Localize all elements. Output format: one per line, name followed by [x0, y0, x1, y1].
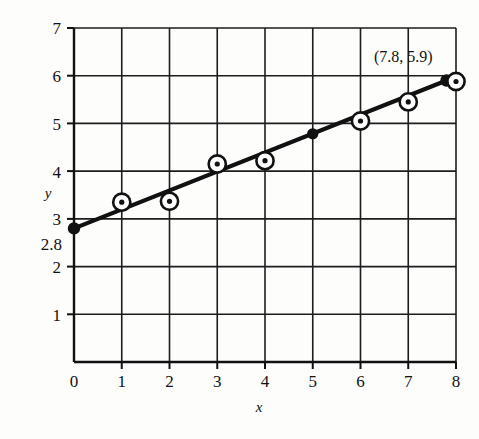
chart-figure: 7 6 5 4 3 2 1 2.8 0 1 2 3 4 5 6 7 8 y x …: [0, 0, 479, 439]
x-tick-labels: 0 1 2 3 4 5 6 7 8: [70, 372, 461, 391]
data-point-x3: [209, 155, 226, 172]
y-tick-label-3: 3: [53, 210, 62, 229]
data-point-x1: [113, 194, 130, 211]
y-tick-label-7: 7: [53, 19, 62, 38]
x-tick-label-7: 7: [404, 372, 413, 391]
x-tick-label-6: 6: [356, 372, 365, 391]
data-point-x8: [447, 73, 464, 90]
x-tick-label-4: 4: [261, 372, 270, 391]
x-axis-title: x: [255, 399, 263, 415]
y-tick-label-5: 5: [53, 115, 62, 134]
line-start-point: [68, 222, 80, 234]
y-axis-title: y: [43, 185, 52, 201]
y-tick-label-6: 6: [53, 67, 62, 86]
data-point-x4: [256, 152, 273, 169]
scatter-plot-with-fit-line: 7 6 5 4 3 2 1 2.8 0 1 2 3 4 5 6 7 8 y x …: [0, 0, 479, 439]
data-point-x2: [161, 193, 178, 210]
y-tick-label-4: 4: [53, 163, 62, 182]
data-point-x7: [400, 93, 417, 110]
y-tick-label-1: 1: [53, 306, 62, 325]
x-tick-label-0: 0: [70, 372, 79, 391]
x-tick-label-8: 8: [452, 372, 461, 391]
y-tick-labels: 7 6 5 4 3 2 1: [53, 19, 62, 325]
x-tick-label-2: 2: [165, 372, 174, 391]
y-tick-label-2: 2: [53, 258, 62, 277]
x-tick-label-1: 1: [118, 372, 127, 391]
endpoint-annotation: (7.8, 5.9): [374, 48, 433, 66]
line-mid-point: [307, 128, 318, 139]
data-point-x6: [352, 112, 369, 129]
x-tick-label-5: 5: [309, 372, 318, 391]
x-tick-label-3: 3: [213, 372, 222, 391]
y-intercept-label: 2.8: [41, 235, 62, 254]
